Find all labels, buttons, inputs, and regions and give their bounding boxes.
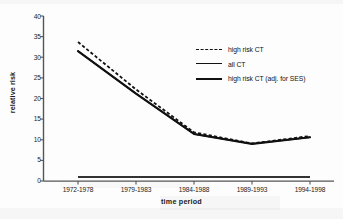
- legend-item-high-risk-ct-adj-ses: high risk CT (adj. for SES): [196, 73, 305, 84]
- legend-item-all-ct: all CT: [196, 59, 305, 70]
- legend-label-all-ct: all CT: [228, 61, 245, 68]
- chart-legend: high risk CT all CT high risk CT (adj. f…: [196, 44, 305, 88]
- legend-label-high-risk-ct-adj-ses: high risk CT (adj. for SES): [228, 75, 305, 82]
- legend-swatch-thick-icon: [196, 74, 222, 84]
- legend-item-high-risk-ct: high risk CT: [196, 44, 305, 55]
- legend-swatch-dashed-icon: [196, 45, 222, 55]
- legend-label-high-risk-ct: high risk CT: [228, 46, 264, 53]
- legend-swatch-solid-icon: [196, 59, 222, 69]
- plot-area: [0, 0, 343, 219]
- chart-figure: relative risk 40 35 30 25 20 15 10 5 0 1…: [0, 0, 343, 219]
